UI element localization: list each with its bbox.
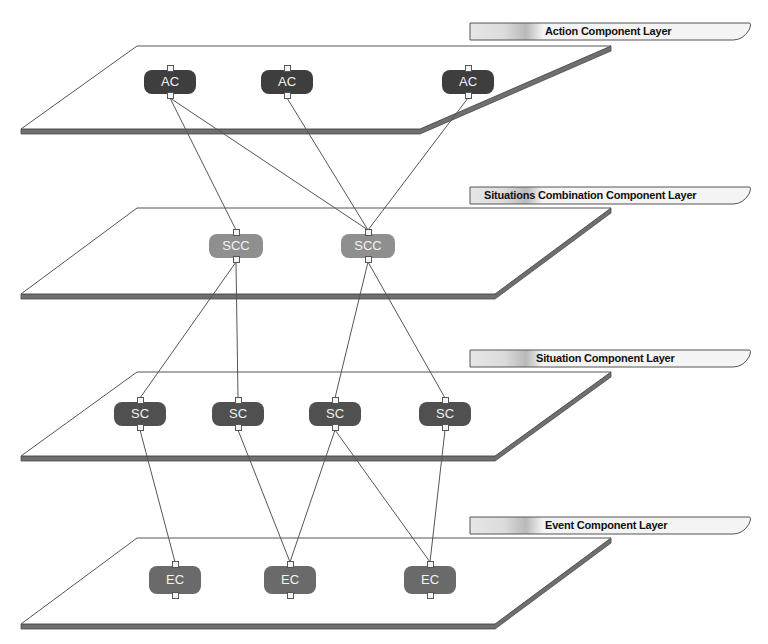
node-label: EC bbox=[421, 572, 439, 587]
component-node-ac: AC bbox=[442, 70, 494, 94]
component-node-sc: SC bbox=[114, 402, 166, 426]
component-node-ec: EC bbox=[264, 566, 316, 594]
node-label: EC bbox=[166, 572, 184, 587]
port-bottom-icon bbox=[284, 92, 291, 99]
component-node-ac: AC bbox=[261, 70, 313, 94]
node-label: SCC bbox=[222, 238, 249, 253]
layer-label-situation: Situation Component Layer bbox=[469, 349, 749, 368]
port-bottom-icon bbox=[427, 592, 434, 599]
port-bottom-icon bbox=[287, 592, 294, 599]
layer-label-text: Situation Component Layer bbox=[536, 349, 675, 368]
node-label: SC bbox=[229, 406, 247, 421]
layer-plane-situations-combination bbox=[21, 208, 611, 299]
layer-label-event: Event Component Layer bbox=[469, 516, 749, 535]
connection-lines bbox=[140, 98, 468, 562]
node-label: EC bbox=[281, 572, 299, 587]
layer-label-text: Event Component Layer bbox=[545, 516, 667, 535]
node-label: AC bbox=[278, 74, 296, 89]
port-top-icon bbox=[137, 397, 144, 404]
component-node-ac: AC bbox=[144, 70, 196, 94]
layer-label-text: Situations Combination Component Layer bbox=[484, 186, 696, 205]
port-top-icon bbox=[332, 397, 339, 404]
node-label: SCC bbox=[354, 238, 381, 253]
layer-plane-event bbox=[21, 538, 611, 629]
component-node-sc: SC bbox=[309, 402, 361, 426]
node-label: AC bbox=[459, 74, 477, 89]
port-top-icon bbox=[172, 561, 179, 568]
component-node-sc: SC bbox=[212, 402, 264, 426]
node-label: SC bbox=[131, 406, 149, 421]
component-node-ec: EC bbox=[404, 566, 456, 594]
component-node-ec: EC bbox=[149, 566, 201, 594]
port-top-icon bbox=[233, 229, 240, 236]
port-bottom-icon bbox=[172, 592, 179, 599]
layer-label-action: Action Component Layer bbox=[469, 22, 749, 41]
layer-plane-action bbox=[21, 46, 611, 134]
node-label: SC bbox=[326, 406, 344, 421]
port-top-icon bbox=[284, 65, 291, 72]
component-node-scc: SCC bbox=[341, 234, 395, 258]
port-bottom-icon bbox=[365, 256, 372, 263]
node-label: SC bbox=[436, 406, 454, 421]
node-label: AC bbox=[161, 74, 179, 89]
port-top-icon bbox=[365, 229, 372, 236]
layer-label-text: Action Component Layer bbox=[545, 22, 671, 41]
port-bottom-icon bbox=[465, 92, 472, 99]
port-bottom-icon bbox=[167, 92, 174, 99]
port-bottom-icon bbox=[332, 424, 339, 431]
component-node-scc: SCC bbox=[209, 234, 263, 258]
layered-architecture-diagram: Action Component LayerSituations Combina… bbox=[0, 0, 768, 644]
port-bottom-icon bbox=[442, 424, 449, 431]
port-top-icon bbox=[287, 561, 294, 568]
port-top-icon bbox=[442, 397, 449, 404]
layer-label-situations-combination: Situations Combination Component Layer bbox=[469, 186, 749, 205]
port-bottom-icon bbox=[235, 424, 242, 431]
diagram-canvas bbox=[0, 0, 768, 644]
port-top-icon bbox=[235, 397, 242, 404]
component-node-sc: SC bbox=[419, 402, 471, 426]
port-top-icon bbox=[167, 65, 174, 72]
port-bottom-icon bbox=[137, 424, 144, 431]
port-top-icon bbox=[427, 561, 434, 568]
port-bottom-icon bbox=[233, 256, 240, 263]
port-top-icon bbox=[465, 65, 472, 72]
